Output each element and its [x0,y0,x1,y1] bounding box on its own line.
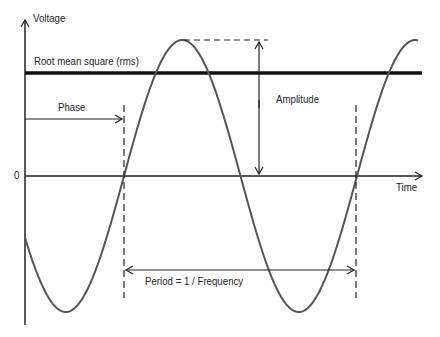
y-axis-label: Voltage [33,12,65,24]
period-label: Period = 1 / Frequency [145,275,243,287]
amplitude-label: Amplitude [276,93,319,105]
x-axis-label: Time [396,181,417,193]
phase-label: Phase [58,101,85,113]
rms-label: Root mean square (rms) [34,55,139,67]
zero-label: 0 [14,169,19,181]
